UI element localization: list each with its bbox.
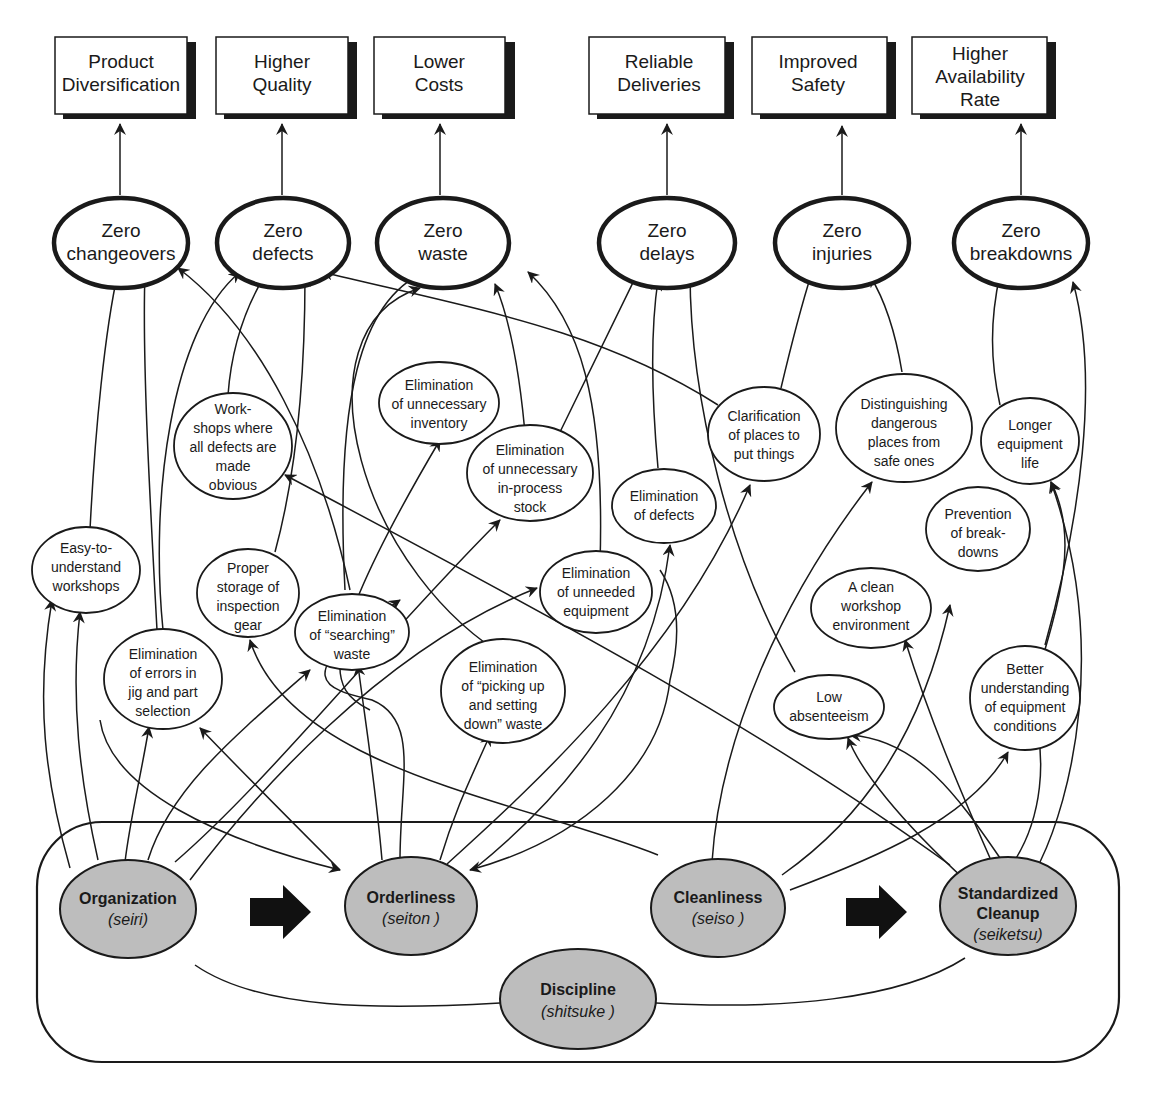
outcome-lower-costs: LowerCosts [374,37,515,119]
goal-zero-breakdowns: Zerobreakdowns [954,198,1088,288]
svg-text:Organization: Organization [79,890,177,907]
s-node-discipline: Discipline (shitsuke ) [500,949,656,1049]
svg-text:Orderliness: Orderliness [367,889,456,906]
svg-text:Clarificationof places toput t: Clarificationof places toput things [727,408,800,462]
node-elim-defects: Eliminationof defects [612,469,716,543]
goal-zero-defects: Zerodefects [217,198,349,288]
svg-text:Cleanliness: Cleanliness [674,889,763,906]
outcome-improved-safety: ImprovedSafety [752,37,896,119]
s-node-cleanliness: Cleanliness (seiso ) [651,859,785,957]
goal-zero-changeovers: Zerochangeovers [54,198,188,288]
node-elim-unnecessary-inventory: Eliminationof unnecessaryinventory [379,362,499,444]
node-elim-picking-up: Eliminationof “picking upand settingdown… [441,639,565,743]
svg-text:(seiso ): (seiso ) [692,910,744,927]
node-low-absenteeism: Lowabsenteeism [774,675,884,739]
svg-text:(seiri): (seiri) [108,911,148,928]
svg-text:(seiketsu): (seiketsu) [973,926,1042,943]
outcome-product-diversification: ProductDiversification [55,37,196,119]
svg-text:Easy-to-understandworkshops: Easy-to-understandworkshops [51,540,121,594]
svg-text:Eliminationof unneededequipmen: Eliminationof unneededequipment [557,565,635,619]
goal-to-outcome-arrows [120,124,1021,195]
svg-text:(shitsuke ): (shitsuke ) [541,1003,615,1020]
s-node-orderliness: Orderliness (seiton ) [345,857,477,955]
node-clarification-places: Clarificationof places toput things [708,387,820,481]
node-workshops-defects-obvious: Work-shops whereall defects aremadeobvio… [174,393,292,499]
node-prevention-breakdowns: Preventionof break-downs [926,487,1030,571]
goal-zero-injuries: Zeroinjuries [775,198,909,288]
outcome-higher-quality: HigherQuality [216,37,357,119]
outcome-higher-availability-rate: HigherAvailabilityRate [912,37,1056,119]
node-distinguishing-dangerous: Distinguishingdangerousplaces fromsafe o… [836,374,972,482]
node-proper-storage: Properstorage ofinspectiongear [197,549,299,637]
goal-zero-delays: Zerodelays [599,198,735,288]
node-longer-equipment-life: Longerequipmentlife [981,398,1079,484]
s-node-organization: Organization (seiri) [60,860,196,958]
progression-arrow-1 [250,885,311,939]
svg-text:Standardized: Standardized [958,885,1058,902]
goal-zero-waste: Zerowaste [377,198,509,288]
s-node-standardized-cleanup: Standardized Cleanup (seiketsu) [940,857,1076,955]
node-elim-errors-jig: Eliminationof errors injig and partselec… [104,629,222,729]
svg-text:(seiton ): (seiton ) [382,910,440,927]
node-elim-in-process-stock: Eliminationof unnecessaryin-processstock [467,425,593,521]
svg-text:Cleanup: Cleanup [976,905,1039,922]
progression-arrow-2 [846,885,907,939]
node-elim-unneeded-equipment: Eliminationof unneededequipment [540,551,652,633]
node-easy-to-understand: Easy-to-understandworkshops [32,527,140,613]
svg-text:Discipline: Discipline [540,981,616,998]
node-elim-searching: Eliminationof “searching”waste [295,594,409,670]
node-better-understanding: Betterunderstandingof equipmentcondition… [970,646,1080,750]
outcome-reliable-deliveries: ReliableDeliveries [589,37,734,119]
5s-diagram: ProductDiversification HigherQuality Low… [0,0,1156,1101]
node-clean-workshop: A cleanworkshopenvironment [811,568,931,648]
